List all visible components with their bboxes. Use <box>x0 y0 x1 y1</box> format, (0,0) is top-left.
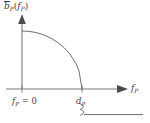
dp-tick-label: dP <box>76 97 85 107</box>
x-axis-label: fP <box>131 84 138 94</box>
horizontal-axis-arrowhead <box>117 85 128 93</box>
y-axis-label: bP(fP) <box>4 2 28 12</box>
origin-tick-label: fP = 0 <box>12 97 37 107</box>
decay-curve <box>22 31 82 89</box>
vertical-axis-arrowhead <box>18 14 26 24</box>
axis-break-squiggle <box>80 104 144 116</box>
horizontal-axis <box>6 85 128 93</box>
figure-container: bP(fP) fP fP = 0 dP <box>0 0 150 123</box>
vertical-axis <box>18 14 26 89</box>
